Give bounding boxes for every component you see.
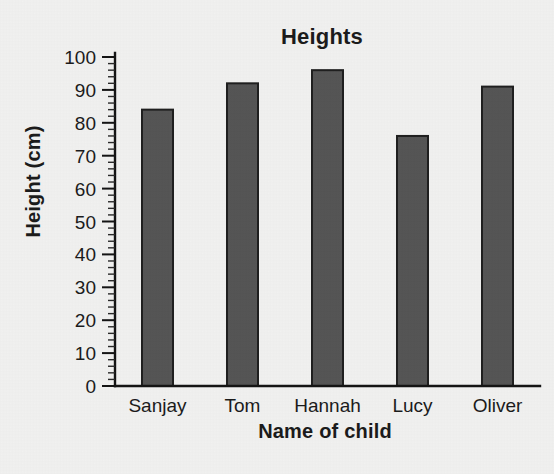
x-tick-label: Oliver <box>473 395 523 416</box>
plot-area: 0102030405060708090100 SanjayTomHannahLu… <box>0 0 554 474</box>
y-tick-label: 100 <box>64 47 96 68</box>
y-tick-label: 50 <box>75 212 96 233</box>
bar-chart: Heights Height (cm) Name of child 010203… <box>0 0 554 474</box>
y-tick-label: 40 <box>75 244 96 265</box>
y-tick-label: 10 <box>75 343 96 364</box>
y-tick-label: 0 <box>85 376 96 397</box>
bar <box>482 87 513 386</box>
y-tick-label: 60 <box>75 179 96 200</box>
y-tick-label: 20 <box>75 310 96 331</box>
bar <box>397 136 428 386</box>
y-tick-label: 90 <box>75 80 96 101</box>
bars-group <box>142 70 513 386</box>
x-tick-label: Hannah <box>294 395 361 416</box>
bar <box>142 110 173 386</box>
x-tick-label: Tom <box>225 395 261 416</box>
y-tick-label: 80 <box>75 113 96 134</box>
bar <box>227 83 258 386</box>
y-tick-label: 30 <box>75 277 96 298</box>
x-tick-label: Lucy <box>392 395 433 416</box>
y-axis: 0102030405060708090100 <box>64 47 115 397</box>
bar <box>312 70 343 386</box>
x-axis: SanjayTomHannahLucyOliver <box>115 386 540 416</box>
y-tick-label: 70 <box>75 146 96 167</box>
x-tick-label: Sanjay <box>128 395 187 416</box>
